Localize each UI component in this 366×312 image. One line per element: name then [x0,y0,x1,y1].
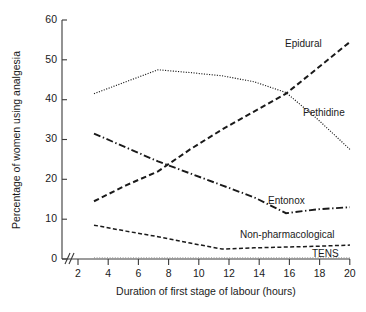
y-tick-label-40: 40 [45,92,57,104]
series-labels: Epidural Pethidine Entonox Non-pharmacol… [240,38,345,259]
x-axis-ticks [78,259,350,265]
x-tick-label-6: 6 [135,267,141,279]
x-axis-title: Duration of first stage of labour (hours… [116,285,296,297]
x-tick-label-10: 10 [193,267,205,279]
x-tick-label-4: 4 [105,267,111,279]
y-tick-label-20: 20 [45,172,57,184]
y-tick-label-0: 0 [51,252,57,264]
x-tick-label-18: 18 [314,267,326,279]
y-axis-ticks [62,20,67,259]
series-label-non-pharmacological: Non-pharmacological [240,229,335,240]
x-axis-tick-labels: 2 4 6 8 10 12 14 16 18 20 [75,267,356,279]
y-tick-label-10: 10 [45,212,57,224]
x-tick-label-20: 20 [344,267,356,279]
chart-figure: 0 10 20 30 40 50 60 2 4 6 8 10 12 [0,0,366,312]
x-tick-label-14: 14 [253,267,265,279]
line-chart: 0 10 20 30 40 50 60 2 4 6 8 10 12 [0,0,366,312]
y-axis-title: Percentage of women using analgesia [10,51,22,229]
x-tick-label-8: 8 [166,267,172,279]
series-label-tens: TENS [312,248,339,259]
series-label-pethidine: Pethidine [303,107,345,118]
x-tick-label-2: 2 [75,267,81,279]
y-tick-label-30: 30 [45,132,57,144]
x-tick-label-16: 16 [284,267,296,279]
series-line-entonox [94,134,350,214]
series-label-epidural: Epidural [285,38,322,49]
x-tick-label-12: 12 [223,267,235,279]
series-line-epidural [94,42,350,201]
series-lines [94,42,350,258]
y-tick-label-60: 60 [45,13,57,25]
y-axis-tick-labels: 0 10 20 30 40 50 60 [45,13,57,264]
series-label-entonox: Entonox [268,195,305,206]
y-tick-label-50: 50 [45,53,57,65]
